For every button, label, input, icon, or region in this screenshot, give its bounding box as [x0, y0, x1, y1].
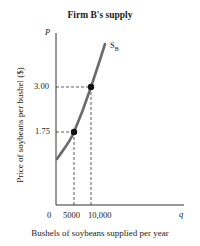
x-axis-symbol: q [179, 209, 183, 219]
point-5000-1-75 [71, 129, 77, 135]
x-tick-10000: 10,000 [88, 210, 111, 220]
y-axis-label: Price of soybeans per bushel ($) [15, 67, 25, 183]
curve-label: SB [110, 40, 119, 52]
x-tick-5000: 5000 [63, 210, 80, 220]
supply-curve [57, 44, 105, 159]
y-tick-3-00: 3.00 [34, 81, 49, 91]
point-10000-3-00 [88, 84, 94, 90]
x-tick-0: 0 [47, 210, 51, 220]
y-tick-1-75: 1.75 [35, 126, 50, 136]
y-axis-symbol: P [45, 27, 50, 37]
x-axis-label: Bushels of soybeans supplied per year [0, 228, 200, 238]
